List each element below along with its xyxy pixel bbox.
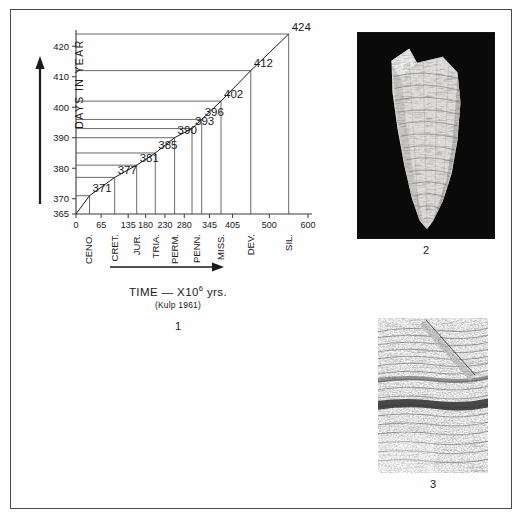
y-tick-label: 380 [53, 163, 69, 174]
y-tick-label: 420 [53, 41, 69, 52]
x-axis-exponent: 6 [199, 284, 204, 293]
figure-1-chart: DAYS IN YEAR 365370380390400410420065135… [18, 22, 338, 317]
period-label: SIL. [283, 234, 294, 251]
x-tick-label: 135 [121, 220, 136, 230]
figure-3-number: 3 [378, 478, 488, 490]
point-value-label: 396 [205, 106, 224, 118]
point-value-label: 381 [140, 152, 159, 164]
plate-page: DAYS IN YEAR 365370380390400410420065135… [0, 0, 522, 527]
figure-2-photograph: 2 [357, 32, 495, 257]
y-tick-label: 410 [53, 71, 69, 82]
period-label: CRET. [109, 234, 120, 261]
period-label: PERM. [169, 234, 180, 264]
period-label: PENN. [191, 234, 202, 263]
period-label: DEV. [245, 234, 256, 255]
point-value-label: 390 [178, 124, 197, 136]
y-tick-label: 365 [53, 208, 69, 219]
x-tick-label: 600 [300, 220, 315, 230]
growth-bands-closeup-illustration [378, 318, 488, 473]
coral-specimen-illustration [358, 33, 494, 238]
x-tick-label: 0 [73, 220, 78, 230]
x-tick-label: 230 [157, 220, 172, 230]
x-axis-caption-block: TIME — X106 yrs. (Kulp 1961) 1 [78, 284, 278, 332]
period-label: MISS. [215, 234, 226, 260]
point-value-label: 424 [292, 22, 312, 33]
figure-2-image [357, 32, 495, 239]
point-value-label: 412 [254, 57, 273, 69]
x-axis-title-text: TIME — X10 [129, 286, 199, 298]
y-tick-label: 400 [53, 102, 69, 113]
x-tick-label: 345 [202, 220, 217, 230]
point-value-label: 371 [93, 182, 112, 194]
period-label: JUR. [131, 234, 142, 255]
y-tick-label: 370 [53, 193, 69, 204]
x-axis-direction-arrow-head [212, 262, 224, 271]
period-label: TRIA. [150, 234, 161, 258]
figure-1-number: 1 [78, 320, 278, 332]
y-tick-label: 390 [53, 132, 69, 143]
point-value-label: 385 [158, 139, 177, 151]
x-axis-unit: yrs. [207, 286, 227, 298]
x-axis-source-citation: (Kulp 1961) [78, 300, 278, 310]
point-value-label: 377 [118, 164, 137, 176]
y-axis-title: DAYS IN YEAR [73, 19, 85, 149]
chart-plot-area: 3653703803904004104200651351802302803454… [18, 22, 338, 272]
figure-3-image [378, 318, 488, 473]
period-label: CENO. [83, 234, 94, 264]
figure-3-photograph: 3 [378, 318, 488, 493]
x-axis-title: TIME — X106 yrs. [78, 284, 278, 298]
x-tick-label: 65 [96, 220, 106, 230]
x-tick-label: 180 [138, 220, 153, 230]
x-tick-label: 500 [262, 220, 277, 230]
y-axis-direction-arrow-head [35, 56, 44, 69]
x-tick-label: 280 [177, 220, 192, 230]
figure-2-number: 2 [357, 244, 495, 256]
point-value-label: 402 [224, 88, 243, 100]
x-tick-label: 405 [225, 220, 240, 230]
